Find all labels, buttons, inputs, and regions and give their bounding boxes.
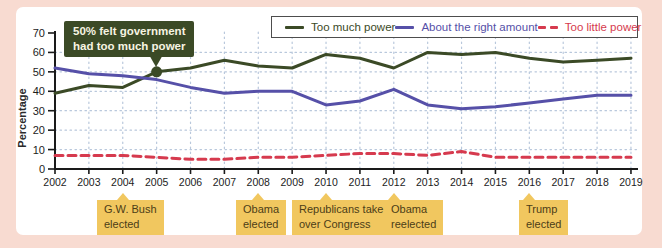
- legend-swatch-too-much-power: [285, 26, 304, 29]
- x-tick-label: 2006: [179, 176, 203, 188]
- y-tick-label: 70: [33, 27, 45, 39]
- x-tick-label: 2011: [349, 176, 372, 188]
- y-tick-label: 20: [33, 124, 45, 136]
- x-tick-label: 2010: [314, 176, 338, 188]
- legend: Too much power About the right amount To…: [271, 16, 638, 38]
- annotation-line-2: had too much power: [73, 39, 185, 54]
- x-tick-label: 2009: [280, 176, 304, 188]
- x-tick-label: 2008: [247, 176, 271, 188]
- x-tick-label: 2019: [619, 176, 643, 188]
- y-tick-label: 50: [33, 66, 45, 78]
- callout-arrow: [148, 53, 164, 67]
- y-tick-label: 30: [33, 105, 45, 117]
- x-tick-label: 2013: [416, 176, 440, 188]
- x-tick-label: 2016: [518, 176, 542, 188]
- series-line-about-the-right-amount: [55, 68, 631, 109]
- x-tick-label: 2015: [484, 176, 508, 188]
- y-tick-label: 40: [33, 85, 45, 97]
- y-tick-label: 10: [33, 144, 45, 156]
- x-tick-label: 2014: [450, 176, 474, 188]
- legend-swatch-too-little-power: [538, 26, 558, 29]
- x-tick-label: 2017: [552, 176, 576, 188]
- annotation-callout: 50% felt government had too much power: [64, 21, 194, 57]
- x-tick-label: 2004: [111, 176, 135, 188]
- legend-item-about-right-amount: About the right amount: [395, 21, 537, 33]
- x-tick-label: 2003: [77, 176, 101, 188]
- legend-item-too-little-power: Too little power: [538, 21, 642, 33]
- legend-label-too-much-power: Too much power: [311, 21, 395, 33]
- series-line-too-little-power: [55, 152, 631, 160]
- chart-card: 0102030405060702002200320042005200620072…: [0, 0, 662, 248]
- y-axis-title: Percentage: [16, 48, 30, 188]
- x-tick-label: 2012: [382, 176, 406, 188]
- annotation-line-1: 50% felt government: [73, 24, 185, 39]
- legend-swatch-about-right-amount: [395, 26, 414, 29]
- legend-label-too-little-power: Too little power: [565, 21, 642, 33]
- x-tick-label: 2002: [43, 176, 67, 188]
- y-tick-label: 0: [39, 163, 45, 175]
- y-tick-label: 60: [33, 46, 45, 58]
- legend-item-too-much-power: Too much power: [285, 21, 395, 33]
- x-tick-label: 2018: [585, 176, 609, 188]
- x-tick-label: 2007: [213, 176, 237, 188]
- annotation-marker-dot: [151, 66, 162, 77]
- legend-label-about-right-amount: About the right amount: [421, 21, 537, 33]
- x-tick-label: 2005: [145, 176, 169, 188]
- series-line-too-much-power: [55, 52, 631, 93]
